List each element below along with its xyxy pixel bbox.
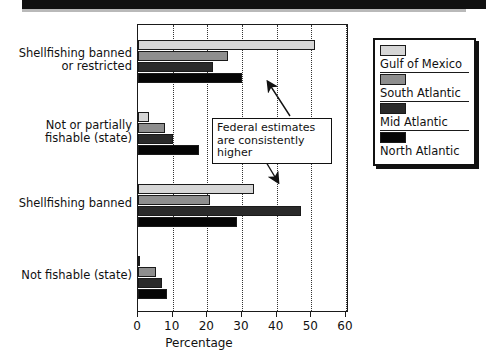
bar bbox=[138, 112, 149, 122]
legend-item[interactable]: South Atlantic bbox=[375, 74, 474, 102]
bar-group bbox=[138, 40, 347, 83]
bar bbox=[138, 289, 167, 299]
category-label: Not fishable (state) bbox=[21, 269, 132, 283]
x-tick bbox=[345, 312, 346, 317]
bar bbox=[138, 256, 140, 266]
legend-label: North Atlantic bbox=[380, 144, 469, 159]
bar bbox=[138, 40, 315, 50]
bar bbox=[138, 195, 210, 205]
legend-swatch-icon bbox=[380, 132, 406, 143]
legend-label: South Atlantic bbox=[380, 86, 469, 102]
bar-group bbox=[138, 184, 347, 227]
x-tick bbox=[276, 312, 277, 317]
x-tick-label: 0 bbox=[133, 319, 141, 333]
bar bbox=[138, 134, 173, 144]
legend-item[interactable]: North Atlantic bbox=[375, 132, 474, 159]
x-tick-label: 50 bbox=[303, 319, 318, 333]
bar bbox=[138, 267, 156, 277]
legend-swatch-icon bbox=[380, 45, 406, 56]
legend-label: Mid Atlantic bbox=[380, 115, 469, 131]
bar bbox=[138, 278, 162, 288]
x-tick-label: 20 bbox=[199, 319, 214, 333]
bar bbox=[138, 217, 237, 227]
x-tick bbox=[241, 312, 242, 317]
category-label: Shellfishing banned bbox=[19, 197, 132, 211]
plot-area bbox=[137, 24, 348, 312]
x-tick bbox=[206, 312, 207, 317]
bar bbox=[138, 184, 254, 194]
legend-item[interactable]: Gulf of Mexico bbox=[375, 45, 474, 73]
bar bbox=[138, 62, 213, 72]
x-tick-label: 10 bbox=[164, 319, 179, 333]
annotation-callout: Federal estimates are consistently highe… bbox=[212, 118, 332, 164]
bar bbox=[138, 73, 242, 83]
x-tick bbox=[310, 312, 311, 317]
x-tick bbox=[137, 312, 138, 317]
bar bbox=[138, 206, 301, 216]
x-tick-label: 60 bbox=[337, 319, 352, 333]
bar-group bbox=[138, 256, 347, 299]
legend: Gulf of MexicoSouth AtlanticMid Atlantic… bbox=[373, 38, 476, 166]
x-tick bbox=[172, 312, 173, 317]
legend-label: Gulf of Mexico bbox=[380, 57, 469, 73]
bar bbox=[138, 123, 165, 133]
x-tick-label: 30 bbox=[233, 319, 248, 333]
category-label: Not or partially fishable (state) bbox=[45, 119, 132, 146]
legend-item[interactable]: Mid Atlantic bbox=[375, 103, 474, 131]
bar bbox=[138, 145, 199, 155]
x-tick-label: 40 bbox=[268, 319, 283, 333]
header-banner-strip bbox=[22, 0, 486, 9]
category-label: Shellfishing banned or restricted bbox=[19, 47, 132, 74]
chart-figure: Shellfishing banned or restrictedNot or … bbox=[0, 12, 486, 350]
x-axis-title-text: Percentage bbox=[165, 336, 233, 350]
x-axis-title: Percentage bbox=[0, 336, 486, 350]
legend-swatch-icon bbox=[380, 74, 406, 85]
bar bbox=[138, 51, 228, 61]
legend-swatch-icon bbox=[380, 103, 406, 114]
